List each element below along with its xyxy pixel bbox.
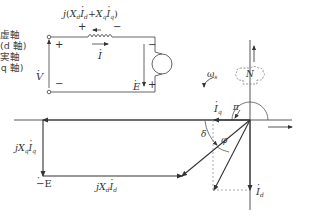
inductor <box>88 35 112 38</box>
omega-sub: s <box>214 73 217 80</box>
paren-close: ) <box>114 8 118 19</box>
inductor-minus: − <box>113 22 121 32</box>
i-sub: d <box>260 191 264 198</box>
rotor-pole-label: N <box>246 70 254 79</box>
V-phasor <box>182 120 250 176</box>
i: I <box>214 103 218 114</box>
inductor-plus: + <box>78 22 86 32</box>
x-sub: q <box>25 147 29 154</box>
pi-angle-label: π <box>233 103 239 112</box>
i: I <box>110 181 114 192</box>
terminal-bottom <box>47 90 51 94</box>
delta-angle-label: δ <box>201 130 206 139</box>
x: X <box>99 181 106 192</box>
rotation-speed-label: ωs <box>207 70 217 80</box>
Id-label: Id <box>256 187 264 198</box>
delta-angle-arc <box>205 121 217 145</box>
terminal-voltage-label: V <box>36 72 310 82</box>
plus: + <box>88 8 96 19</box>
current-label: I <box>98 51 310 61</box>
x: X <box>18 142 25 153</box>
phi-angle-arc <box>217 147 229 152</box>
terminal-top <box>47 35 51 39</box>
iq: I <box>106 8 110 19</box>
i-sub: d <box>113 186 117 193</box>
x-sub: d <box>106 186 110 193</box>
id: I <box>80 8 84 19</box>
i: I <box>256 186 260 197</box>
terminal-minus: − <box>55 79 63 89</box>
i: I <box>29 142 33 153</box>
source-minus: − <box>148 40 156 50</box>
xq: X <box>96 8 103 19</box>
source-plus: + <box>148 80 156 90</box>
reactance-drop-label: j(XdId+XqIq) <box>63 9 118 20</box>
i-sub: q <box>32 147 36 154</box>
emf-label: E <box>133 82 310 92</box>
terminal-plus: + <box>55 40 63 50</box>
jXdId-label: jXdId <box>96 182 117 193</box>
phi-angle-label: φ <box>221 136 227 145</box>
jXqIq-label: jXqIq <box>15 143 36 154</box>
Iq-label: Iq <box>214 104 222 115</box>
i-sub: q <box>218 108 222 115</box>
neg-emf-label: −E <box>36 179 310 189</box>
